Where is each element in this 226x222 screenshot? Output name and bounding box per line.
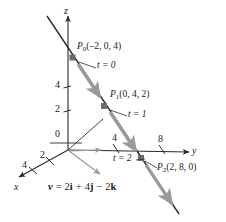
y-axis-label: y xyxy=(192,146,196,156)
z-axis-label: z xyxy=(64,6,68,16)
point-label-p0-coords: (–2, 0, 4) xyxy=(86,41,121,51)
vector-unit-i: i xyxy=(70,181,73,192)
vector-minus: − xyxy=(96,181,102,192)
vector-line-figure: z y x 0 2 4 4 8 2 4 P0(–2, 0, 4) t = 0 P… xyxy=(0,0,226,222)
x-axis-label: x xyxy=(14,182,18,192)
point-label-p1: P1(0, 4, 2) xyxy=(110,90,149,101)
gray-vector-arrow-down xyxy=(69,151,100,174)
marker-point-p2 xyxy=(138,155,144,161)
z-tick-label-4: 4 xyxy=(55,80,60,90)
z-tick-label-2: 2 xyxy=(55,104,60,114)
x-tick-label-2: 2 xyxy=(40,150,45,160)
z-tick-4 xyxy=(64,86,72,88)
vector-unit-j: j xyxy=(90,181,94,192)
y-tick-4 xyxy=(113,144,119,153)
y-tick-label-4: 4 xyxy=(112,133,117,143)
y-tick-label-8: 8 xyxy=(158,134,163,144)
param-label-t2: t = 2 xyxy=(113,154,132,164)
z-tick-2 xyxy=(64,110,72,112)
param-label-t0: t = 0 xyxy=(97,61,116,71)
origin-label: 0 xyxy=(55,129,60,139)
param-label-t1: t = 1 xyxy=(128,110,147,120)
vector-equation: v=2i+4j−2k xyxy=(48,182,116,193)
point-label-p2-coords: (2, 8, 0) xyxy=(166,162,196,172)
helper-ray-upper xyxy=(68,119,103,150)
point-label-p2: P2(2, 8, 0) xyxy=(157,163,196,174)
marker-point-p0 xyxy=(70,55,76,61)
x-tick-label-4: 4 xyxy=(22,160,27,170)
marker-point-p1 xyxy=(101,103,107,109)
vector-equals: = xyxy=(56,181,62,192)
vector-plus: + xyxy=(76,181,82,192)
vector-symbol: v xyxy=(48,181,53,192)
y-tick-8 xyxy=(159,145,165,154)
point-label-p0: P0(–2, 0, 4) xyxy=(77,42,121,53)
point-label-p1-coords: (0, 4, 2) xyxy=(119,89,149,99)
vector-unit-k: k xyxy=(111,181,117,192)
